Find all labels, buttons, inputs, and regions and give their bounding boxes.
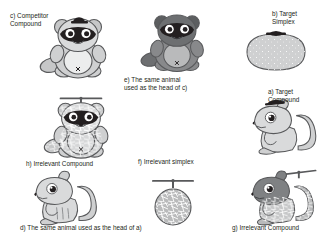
figure-b-target-simplex (243, 26, 309, 78)
caption-c: c) Competitor Compound (10, 12, 88, 28)
squirrel-target-illustration (245, 96, 319, 158)
figure-e-raccoon-dark (137, 10, 215, 76)
propeller-icon (152, 179, 194, 188)
squirrel-plain-illustration (28, 170, 102, 226)
raccoon-mesh-illustration (40, 96, 120, 162)
figure-a-squirrel-target (245, 96, 319, 158)
figure-d-squirrel-plain (28, 170, 102, 226)
mesh-circle-illustration (148, 172, 198, 228)
figure-g-squirrel-mesh (245, 168, 319, 226)
caption-h: h) Irrelevant Compound (26, 160, 136, 168)
raccoon-dark-illustration (137, 10, 215, 76)
caption-a: a) Target Compound (268, 88, 323, 104)
caption-e: e) The same animal used as the head of c… (124, 76, 220, 92)
caption-f: f) Irrelevant simplex (138, 158, 218, 166)
caption-g: g) Irrelevant Compound (232, 224, 323, 232)
squirrel-mesh-illustration (245, 168, 319, 226)
figure-h-raccoon-mesh (40, 96, 120, 162)
figure-f-irrelevant-simplex (148, 172, 198, 228)
caption-b: b) Target Simplex (272, 10, 322, 26)
simplex-blob-illustration (243, 26, 309, 78)
